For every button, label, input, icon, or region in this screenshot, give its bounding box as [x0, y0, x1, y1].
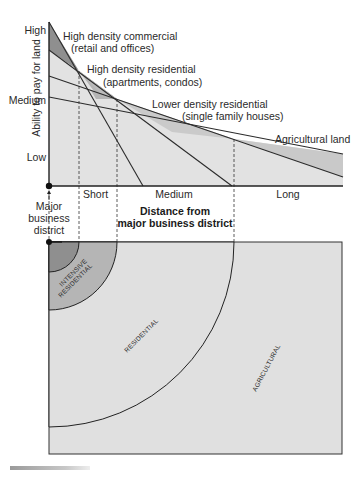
- ldr-label-line2: (single family houses): [182, 110, 284, 122]
- hdr-label-line1: High density residential: [87, 63, 196, 75]
- ldr-label-line1: Lower density residential: [152, 98, 268, 110]
- y-tick-high: High: [24, 24, 46, 36]
- decorative-bar: [10, 466, 90, 470]
- origin-label-line1: Major: [36, 200, 63, 212]
- bid-rent-diagram: High Medium Low Ability to pay for land …: [0, 0, 363, 477]
- x-tick-short: Short: [83, 188, 108, 200]
- x-tick-medium: Medium: [155, 188, 193, 200]
- x-axis-title-line2: major business district: [118, 217, 233, 229]
- commercial-label-line2: (retail and offices): [71, 42, 154, 54]
- hdr-label-line2: (apartments, condos): [103, 76, 202, 88]
- x-axis-title-line1: Distance from: [140, 205, 210, 217]
- origin-arrow-head: [47, 190, 51, 194]
- origin-label-line3: district: [34, 224, 64, 236]
- origin-dot: [46, 183, 52, 189]
- y-axis-label: Ability to pay for land: [30, 39, 42, 137]
- y-tick-low: Low: [27, 151, 47, 163]
- x-tick-long: Long: [276, 188, 300, 200]
- commercial-label-line1: High density commercial: [63, 30, 177, 42]
- agricultural-label: Agricultural land: [275, 133, 350, 145]
- origin-label-line2: business: [28, 212, 69, 224]
